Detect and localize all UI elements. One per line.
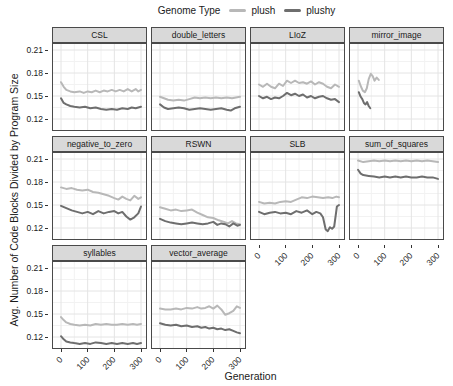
facet-vector_average: vector_average0100200300 <box>151 245 246 373</box>
legend-label-plush: plush <box>251 5 275 16</box>
y-tick-label: 0.21 <box>26 263 43 273</box>
facet-title: LIoZ <box>250 27 345 43</box>
x-axis: 0100200300 <box>52 349 147 373</box>
facet-title: RSWN <box>151 136 246 152</box>
facet-title: double_letters <box>151 27 246 43</box>
facet-panel <box>250 43 345 131</box>
facet-panel <box>250 152 345 240</box>
x-tick-mark <box>285 245 286 248</box>
y-axis-tick-rail: 0.210.180.150.12 <box>22 27 48 131</box>
facet-title: SLB <box>250 136 345 152</box>
y-tick-mark <box>45 314 48 315</box>
legend-title: Genome Type <box>158 5 221 16</box>
x-tick-mark <box>240 349 241 352</box>
y-tick-mark <box>45 291 48 292</box>
facet-panel <box>52 261 147 349</box>
x-tick-mark <box>339 245 340 248</box>
chart-body: Avg. Number of Code Blocks Divided by Pr… <box>0 27 453 373</box>
x-tick-mark <box>141 349 142 352</box>
x-tick-mark <box>259 245 260 248</box>
facet-panel <box>349 152 444 240</box>
facet-CSL: CSL <box>52 27 147 131</box>
facet-RSWN: RSWN <box>151 136 246 240</box>
x-axis: 0100200300 <box>250 245 345 269</box>
y-tick-label: 0.18 <box>26 177 43 187</box>
plush-line-key-icon <box>229 9 246 12</box>
y-tick-label: 0.18 <box>26 68 43 78</box>
y-tick-mark <box>45 96 48 97</box>
y-axis-tick-rail: 0.210.180.150.12 <box>22 136 48 240</box>
x-tick-mark <box>358 245 359 248</box>
y-tick-label: 0.15 <box>26 91 43 101</box>
facet-title: vector_average <box>151 245 246 261</box>
facet-grid: 0.210.180.150.12CSLdouble_lettersLIoZmir… <box>22 27 444 373</box>
facet-panel <box>151 152 246 240</box>
x-tick-mark <box>186 349 187 352</box>
y-tick-label: 0.12 <box>26 114 43 124</box>
facet-LIoZ: LIoZ <box>250 27 345 131</box>
y-tick-mark <box>45 73 48 74</box>
facet-panel <box>151 43 246 131</box>
y-tick-label: 0.18 <box>26 286 43 296</box>
x-axis: 0100200300 <box>349 245 444 269</box>
y-tick-label: 0.15 <box>26 309 43 319</box>
y-tick-mark <box>45 182 48 183</box>
facet-title: sum_of_squares <box>349 136 444 152</box>
x-axis: 0100200300 <box>151 349 246 373</box>
legend-entry-plushy: plushy <box>284 5 335 16</box>
x-tick-mark <box>61 349 62 352</box>
facet-title: syllables <box>52 245 147 261</box>
x-tick-mark <box>114 349 115 352</box>
facet-double_letters: double_letters <box>151 27 246 131</box>
facet-SLB: SLB <box>250 136 345 240</box>
y-tick-label: 0.12 <box>26 332 43 342</box>
y-tick-label: 0.15 <box>26 200 43 210</box>
plushy-line-key-icon <box>284 9 301 12</box>
y-tick-mark <box>45 205 48 206</box>
facet-mirror_image: mirror_image <box>349 27 444 131</box>
faceted-line-chart: Genome Type plush plushy Avg. Number of … <box>0 0 453 386</box>
y-tick-mark <box>45 50 48 51</box>
x-tick-mark <box>87 349 88 352</box>
y-tick-mark <box>45 228 48 229</box>
y-axis-title: Avg. Number of Code Blocks Divided by Pr… <box>6 27 22 373</box>
y-tick-label: 0.21 <box>26 45 43 55</box>
x-tick-mark <box>312 245 313 248</box>
facet-panel <box>52 43 147 131</box>
facet-title: mirror_image <box>349 27 444 43</box>
x-tick-mark <box>213 349 214 352</box>
y-tick-label: 0.21 <box>26 154 43 164</box>
x-tick-mark <box>411 245 412 248</box>
facet-title: negative_to_zero <box>52 136 147 152</box>
legend-entry-plush: plush <box>229 5 275 16</box>
y-tick-mark <box>45 119 48 120</box>
x-tick-label: 300 <box>409 250 442 283</box>
legend-label-plushy: plushy <box>306 5 335 16</box>
facet-panel <box>52 152 147 240</box>
x-tick-mark <box>438 245 439 248</box>
y-tick-mark <box>45 268 48 269</box>
y-axis-tick-rail: 0.210.180.150.12 <box>22 245 48 349</box>
x-tick-mark <box>160 349 161 352</box>
facet-panel <box>349 43 444 131</box>
facet-title: CSL <box>52 27 147 43</box>
x-tick-mark <box>384 245 385 248</box>
y-tick-mark <box>45 159 48 160</box>
y-tick-label: 0.12 <box>26 223 43 233</box>
facet-negative_to_zero: negative_to_zero <box>52 136 147 240</box>
facet-syllables: syllables0100200300 <box>52 245 147 373</box>
y-tick-mark <box>45 337 48 338</box>
legend: Genome Type plush plushy <box>0 0 453 20</box>
facet-sum_of_squares: sum_of_squares <box>349 136 444 240</box>
